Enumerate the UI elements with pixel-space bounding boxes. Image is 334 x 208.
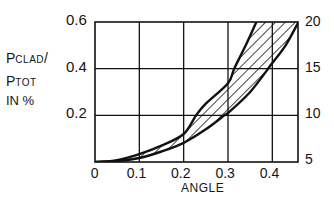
x-tick-label: 0.4 xyxy=(260,166,279,180)
y-label-p: P xyxy=(6,50,15,66)
y-axis-label-line2: PTOT xyxy=(6,73,37,91)
y-label-tot: TOT xyxy=(15,77,36,88)
y-right-tick-label: 20 xyxy=(305,14,321,28)
y-left-tick-label: 0.6 xyxy=(66,13,87,27)
x-tick-label: 0.3 xyxy=(215,166,234,180)
y-right-tick-label: 15 xyxy=(305,60,321,74)
hatched-band xyxy=(95,22,298,162)
x-axis-label: ANGLE xyxy=(181,181,224,195)
y-right-tick-label: 10 xyxy=(305,106,321,120)
y-label-clad: CLAD xyxy=(15,54,44,65)
y-label-p2: P xyxy=(6,73,15,89)
x-tick-label: 0.2 xyxy=(171,166,190,180)
y-right-tick-label: 5 xyxy=(305,152,313,166)
x-tick-label: 0.1 xyxy=(127,166,146,180)
x-tick-label: 0 xyxy=(91,166,99,180)
y-left-tick-label: 0.2 xyxy=(66,106,87,120)
y-label-slash: / xyxy=(44,50,48,66)
y-axis-label-line3: IN % xyxy=(6,93,34,109)
chart-canvas xyxy=(0,0,334,208)
y-axis-label-line1: PCLAD/ xyxy=(6,50,48,68)
y-left-tick-label: 0.4 xyxy=(66,60,87,74)
